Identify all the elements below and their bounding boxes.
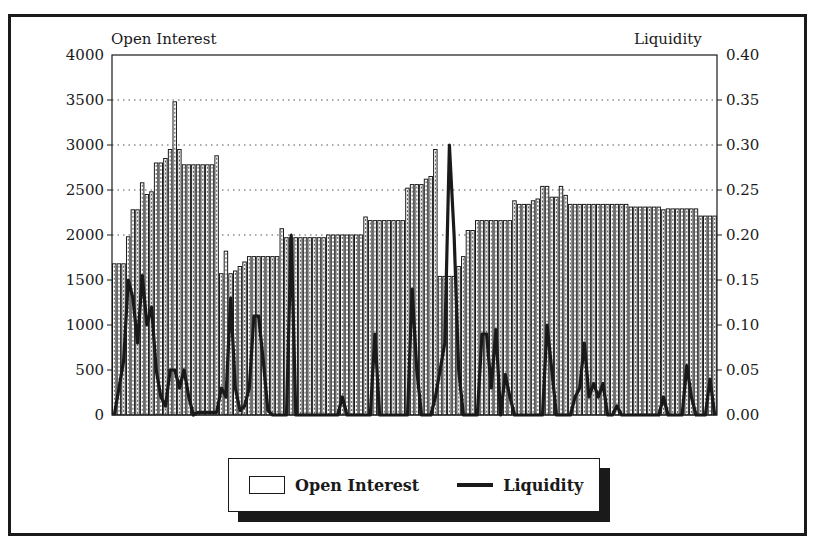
open-interest-bar bbox=[438, 276, 441, 415]
open-interest-bar bbox=[401, 221, 404, 415]
open-interest-bar bbox=[192, 165, 195, 415]
open-interest-bar bbox=[373, 221, 376, 415]
open-interest-bar bbox=[187, 165, 190, 415]
open-interest-bar bbox=[206, 165, 209, 415]
open-interest-bar bbox=[555, 197, 558, 415]
legend-item-liquidity: Liquidity bbox=[457, 476, 583, 495]
open-interest-bar bbox=[485, 221, 488, 415]
legend-label-open-interest: Open Interest bbox=[295, 476, 419, 495]
legend: Open Interest Liquidity bbox=[228, 458, 600, 512]
open-interest-bar bbox=[201, 165, 204, 415]
line-swatch-icon bbox=[457, 483, 493, 487]
open-interest-bar bbox=[196, 165, 199, 415]
legend-label-liquidity: Liquidity bbox=[503, 476, 583, 495]
legend-item-open-interest: Open Interest bbox=[249, 476, 419, 495]
open-interest-bar bbox=[396, 221, 399, 415]
open-interest-bar bbox=[448, 276, 451, 415]
open-interest-bar bbox=[210, 165, 213, 415]
open-interest-bar bbox=[387, 221, 390, 415]
open-interest-bar bbox=[494, 221, 497, 415]
bar-swatch-icon bbox=[249, 476, 285, 494]
open-interest-bar bbox=[480, 221, 483, 415]
open-interest-bar bbox=[382, 221, 385, 415]
open-interest-bar bbox=[392, 221, 395, 415]
